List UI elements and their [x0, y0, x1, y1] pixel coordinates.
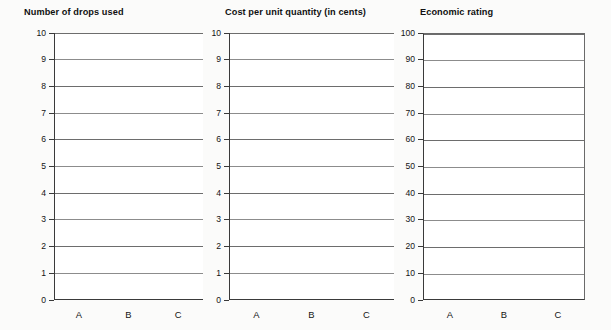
figure-canvas: Number of drops used 012345678910 ABC Co…	[0, 0, 611, 330]
x-axis-label: C	[339, 310, 394, 319]
chart-panel-2: Cost per unit quantity (in cents) 012345…	[205, 0, 405, 330]
y-axis-label: 2	[12, 242, 46, 251]
y-axis-label: 7	[12, 109, 46, 118]
y-axis-label: 0	[12, 296, 46, 305]
y-axis-label: 1	[12, 269, 46, 278]
x-axis-label: C	[531, 310, 585, 319]
chart-title-3: Economic rating	[420, 7, 493, 17]
y-axis-label: 9	[12, 55, 46, 64]
chart-title-2: Cost per unit quantity (in cents)	[225, 7, 366, 17]
x-axis-label: B	[284, 310, 339, 319]
x-axis-label: C	[153, 310, 203, 319]
x-axis-label: A	[54, 310, 104, 319]
y-axis-label: 4	[12, 189, 46, 198]
y-axis-label: 5	[12, 162, 46, 171]
plot-area-3	[423, 33, 585, 300]
chart-panel-1: Number of drops used 012345678910 ABC	[0, 0, 205, 330]
x-axis-label: A	[229, 310, 284, 319]
x-axis-label: B	[477, 310, 531, 319]
chart-title-1: Number of drops used	[24, 7, 124, 17]
y-axis-label: 6	[12, 135, 46, 144]
x-axis-label: A	[423, 310, 477, 319]
chart-panel-3: Economic rating 0102030405060708090100 A…	[405, 0, 611, 330]
y-axis-label: 10	[12, 29, 46, 38]
plot-area-2	[229, 33, 394, 300]
x-axis-label: B	[104, 310, 154, 319]
y-axis-label: 8	[12, 82, 46, 91]
y-axis-label: 3	[12, 215, 46, 224]
plot-area-1	[54, 33, 203, 300]
